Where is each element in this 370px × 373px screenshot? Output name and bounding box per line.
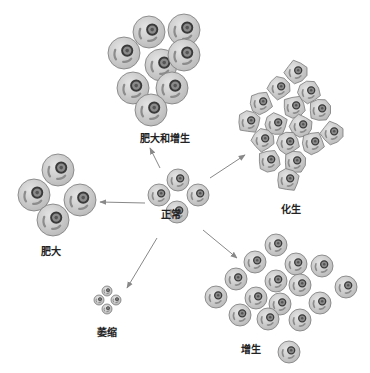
arrow-to-metaplasia	[210, 155, 245, 178]
cell	[309, 292, 331, 314]
cell-nucleolus	[162, 61, 166, 65]
cell-nucleolus	[277, 278, 279, 280]
cell-nucleolus	[264, 137, 266, 139]
cell-nucleolus	[35, 191, 39, 195]
cell	[289, 309, 311, 331]
cell	[285, 253, 307, 275]
cell	[267, 77, 290, 101]
cell-nucleolus	[99, 299, 100, 300]
cell	[250, 92, 272, 115]
cell-nucleolus	[116, 299, 117, 300]
cells-group	[18, 14, 357, 363]
cell-nucleolus	[280, 85, 282, 87]
cell-nucleolus	[134, 84, 138, 88]
cluster-hyperplasia	[205, 234, 357, 363]
cell-nucleolus	[323, 263, 325, 265]
cell-nucleolus	[281, 301, 283, 303]
diagram-canvas: 正常 肥大和增生 化生 肥大 萎缩 增生	[0, 0, 370, 373]
cell-nucleolus	[107, 290, 108, 291]
cell	[229, 304, 251, 326]
cell	[265, 234, 287, 256]
cell-nucleolus	[185, 26, 189, 30]
cell-nucleolus	[256, 259, 258, 261]
cell	[135, 94, 167, 126]
cell	[102, 286, 112, 296]
cell	[108, 37, 140, 69]
cell-nucleolus	[289, 140, 291, 142]
label-hypertrophy-hyperplasia: 肥大和增生	[140, 132, 190, 144]
cell	[205, 286, 227, 308]
cell	[245, 287, 267, 309]
label-hypertrophy: 肥大	[41, 245, 61, 257]
cell	[320, 121, 343, 145]
cell-nucleolus	[277, 121, 279, 123]
cell-nucleolus	[262, 100, 264, 102]
cell	[37, 204, 69, 236]
cell	[187, 184, 209, 206]
cell-nucleolus	[296, 159, 298, 161]
cell-nucleolus	[237, 276, 239, 278]
cell-nucleolus	[302, 123, 304, 125]
cell-nucleolus	[310, 89, 312, 91]
cell-nucleolus	[297, 261, 299, 263]
cell-nucleolus	[347, 284, 349, 286]
cell-nucleolus	[277, 242, 279, 244]
cell	[335, 276, 357, 298]
cell-nucleolus	[301, 282, 303, 284]
cell-nucleolus	[59, 166, 63, 170]
cell-nucleolus	[173, 84, 177, 88]
cell	[310, 100, 330, 121]
cell-nucleolus	[321, 107, 323, 109]
cell-nucleolus	[241, 312, 243, 314]
cell	[311, 255, 333, 277]
cell	[284, 60, 307, 84]
arrow-to-hypertrophy	[100, 202, 145, 203]
cell-nucleolus	[54, 216, 58, 220]
cell-nucleolus	[250, 119, 252, 121]
cell	[167, 169, 189, 191]
cell-nucleolus	[199, 192, 201, 194]
cell	[148, 184, 170, 206]
cell-nucleolus	[107, 308, 108, 309]
label-normal: 正常	[161, 208, 181, 220]
cell-nucleolus	[81, 196, 85, 200]
arrow-to-hypertrophy-hyperplasia	[150, 148, 160, 168]
cell	[111, 295, 121, 305]
cell-adaptation-diagram: 正常 肥大和增生 化生 肥大 萎缩 增生	[0, 0, 370, 373]
arrow-to-atrophy	[127, 238, 157, 288]
cell-nucleolus	[290, 349, 292, 351]
cell-nucleolus	[257, 295, 259, 297]
cell	[64, 184, 96, 216]
cell-nucleolus	[150, 28, 154, 32]
cell	[42, 154, 74, 186]
cell	[302, 132, 324, 154]
cell	[257, 308, 279, 330]
label-atrophy: 萎缩	[96, 326, 117, 338]
cell-nucleolus	[301, 317, 303, 319]
cell-nucleolus	[295, 104, 297, 106]
label-metaplasia: 化生	[281, 203, 301, 215]
cell	[239, 111, 260, 133]
label-hyperplasia: 增生	[241, 343, 261, 355]
cell-nucleolus	[270, 158, 272, 160]
cell	[278, 341, 300, 363]
cell-nucleolus	[160, 192, 162, 194]
cell-nucleolus	[217, 294, 219, 296]
cell-nucleolus	[297, 69, 299, 71]
cell-nucleolus	[269, 316, 271, 318]
cell-nucleolus	[333, 130, 335, 132]
cell	[94, 295, 104, 305]
cell-nucleolus	[179, 177, 181, 179]
cell-nucleolus	[185, 51, 189, 55]
cell-nucleolus	[152, 106, 156, 110]
cell	[225, 268, 247, 290]
cluster-hypertrophy	[18, 154, 96, 236]
cell	[168, 39, 200, 71]
cell	[102, 304, 112, 314]
cluster-hypertrophy-hyperplasia	[108, 14, 200, 126]
cell	[265, 270, 287, 292]
cluster-atrophy	[94, 286, 121, 314]
cell-nucleolus	[321, 300, 323, 302]
cell-nucleolus	[314, 140, 316, 142]
cell-nucleolus	[289, 177, 291, 179]
